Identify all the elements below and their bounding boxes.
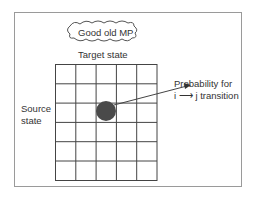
annotation-line2: i ⟶ j transition — [174, 90, 239, 101]
cloud-label: Good old MP — [78, 27, 133, 38]
transition-matrix-grid — [56, 65, 158, 181]
annotation-line1: Probability for — [174, 78, 232, 89]
row-axis-label-line2: state — [21, 115, 42, 126]
highlighted-transition-dot — [96, 101, 116, 121]
row-axis-label-line1: Source — [21, 103, 51, 114]
column-axis-label: Target state — [78, 49, 128, 60]
